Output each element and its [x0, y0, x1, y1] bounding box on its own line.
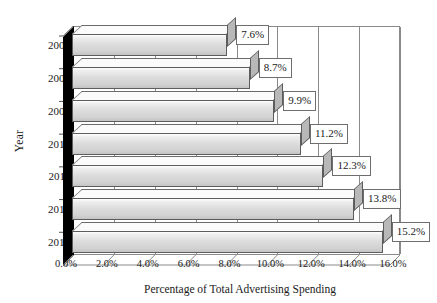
gridline	[400, 27, 401, 254]
bar-chart: Year 2007200820092010201120122013 7.6%8.…	[0, 0, 437, 303]
bar-top-face	[72, 189, 364, 198]
bar-top-face	[72, 58, 260, 67]
data-label: 15.2%	[392, 222, 430, 242]
data-label: 9.9%	[283, 91, 316, 111]
data-label: 8.7%	[259, 58, 292, 78]
bar	[72, 133, 301, 155]
bar-top-face	[72, 25, 237, 34]
bar	[72, 100, 274, 122]
bar	[72, 231, 383, 253]
x-axis-tick-label: 6.0%	[178, 258, 200, 269]
x-axis-tick-label: 0.0%	[55, 258, 77, 269]
bar-top-face	[72, 124, 311, 133]
bar-top-face	[72, 222, 393, 231]
bar	[72, 165, 323, 187]
x-axis-title: Percentage of Total Advertising Spending	[60, 283, 420, 295]
x-axis-tick-label: 14.0%	[339, 258, 366, 269]
x-axis-tick-label: 4.0%	[137, 258, 159, 269]
bar-front-face	[72, 133, 301, 155]
bar-front-face	[72, 100, 274, 122]
bar-front-face	[72, 34, 227, 56]
bar-top-face	[72, 91, 284, 100]
x-axis-tick-labels: 0.0%2.0%4.0%6.0%8.0%10.0%12.0%14.0%16.0%	[0, 258, 437, 276]
data-label: 12.3%	[332, 156, 370, 176]
bar-front-face	[72, 198, 354, 220]
x-axis-tick-label: 2.0%	[96, 258, 118, 269]
gridline	[359, 27, 360, 254]
data-label: 13.8%	[363, 189, 401, 209]
x-axis-tick-label: 16.0%	[379, 258, 406, 269]
bar	[72, 34, 227, 56]
bar-front-face	[72, 231, 383, 253]
x-axis-tick-label: 8.0%	[219, 258, 241, 269]
bar	[72, 67, 250, 89]
data-label: 11.2%	[310, 124, 348, 144]
bar-front-face	[72, 67, 250, 89]
bar-top-face	[72, 156, 333, 165]
x-axis-tick-label: 12.0%	[298, 258, 325, 269]
x-axis-tick-label: 10.0%	[257, 258, 284, 269]
bar-front-face	[72, 165, 323, 187]
bar	[72, 198, 354, 220]
data-label: 7.6%	[236, 25, 269, 45]
